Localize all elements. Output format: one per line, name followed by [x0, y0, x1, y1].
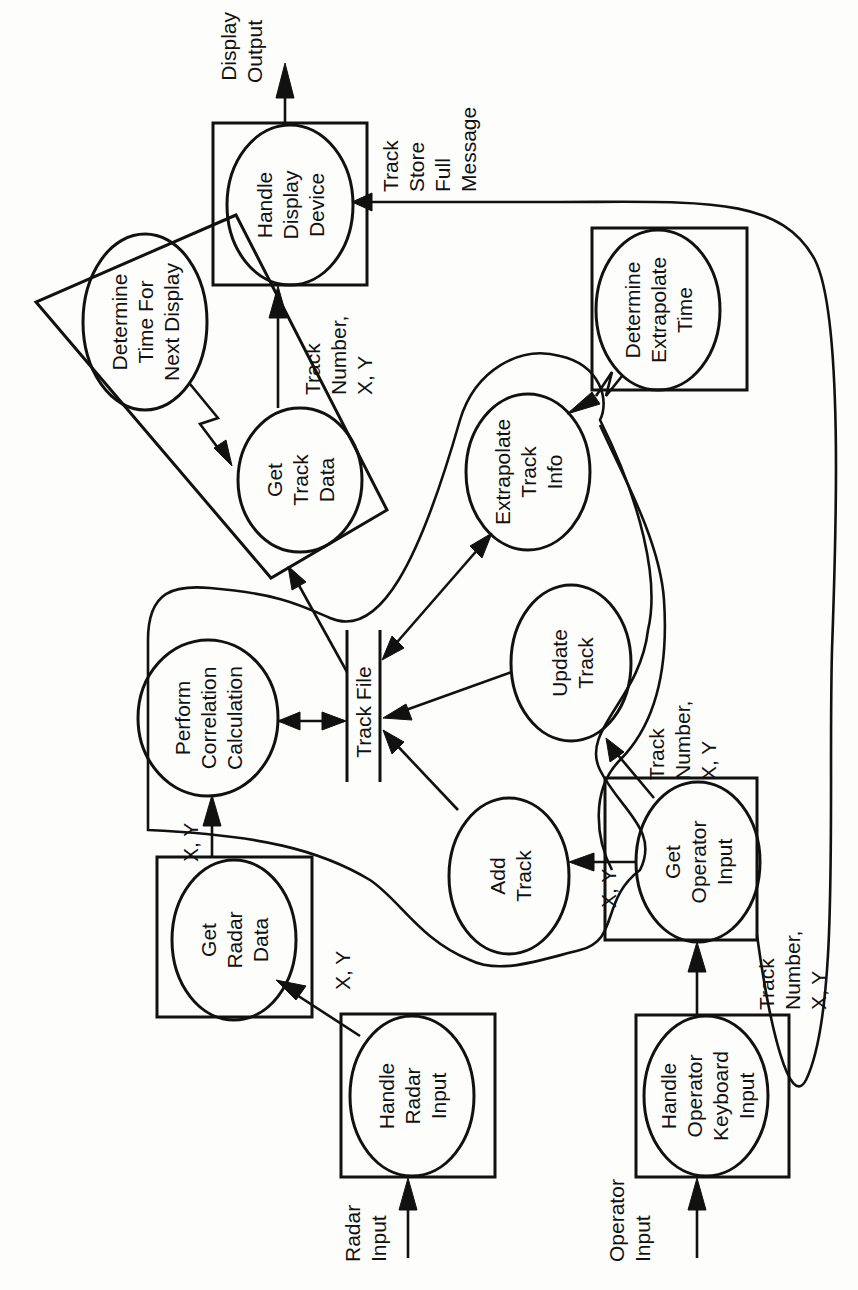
process-label: Display: [279, 170, 302, 239]
process-label: Update: [548, 629, 571, 697]
arrowhead-icon: [688, 942, 706, 972]
process-label: Get: [197, 923, 220, 957]
process-handle-operator-keyboard-input[interactable]: Handle Operator Keyboard Input: [636, 1015, 789, 1177]
flow-label: Message: [457, 107, 480, 192]
arrowhead-icon: [269, 286, 287, 318]
process-label: Operator: [683, 1055, 706, 1138]
flow-trackfile-extrapolate: [382, 533, 492, 660]
arrowhead-icon: [288, 566, 306, 590]
flow-label: Input: [631, 1215, 654, 1262]
process-label: Data: [315, 458, 338, 503]
process-label: Determine: [108, 274, 131, 371]
process-label: Input: [735, 1072, 758, 1119]
flow-update-to-trackfile: [383, 672, 512, 720]
flow-operator-input: Operator Input: [605, 1178, 706, 1262]
arrowhead-icon: [322, 712, 346, 730]
process-perform-correlation-calculation[interactable]: Perform Correlation Calculation: [138, 640, 278, 796]
flow-label: Radar: [341, 1205, 364, 1262]
arrowhead-icon: [352, 193, 372, 211]
arrowhead-icon: [214, 440, 232, 466]
flow-radar-to-correlation: X, Y: [179, 795, 221, 862]
arrowhead-icon: [278, 712, 300, 730]
flow-label: Track: [645, 728, 668, 780]
flow-label: X, Y: [807, 971, 830, 1010]
flow-radar-input-to-get-radar-data: X, Y: [276, 951, 360, 1036]
flow-label: Operator: [605, 1179, 628, 1262]
process-get-operator-input[interactable]: Get Operator Input: [605, 778, 760, 942]
flow-label: X, Y: [179, 823, 202, 862]
process-label: Add: [486, 857, 509, 894]
process-label: Next Display: [160, 263, 183, 381]
flow-label: Number,: [781, 931, 804, 1010]
process-label: Correlation: [197, 667, 220, 770]
arrowhead-icon: [383, 704, 412, 720]
process-label: Extrapolate: [491, 419, 514, 525]
process-get-radar-data[interactable]: Get Radar Data: [157, 857, 312, 1020]
arrowhead-icon: [276, 63, 294, 98]
process-label: Data: [249, 918, 272, 963]
process-label: Time: [673, 287, 696, 333]
flow-track-store-full-message: Track Store Full Message: [352, 107, 836, 1087]
arrowhead-icon: [688, 1178, 706, 1210]
process-determine-time-for-next-display[interactable]: Determine Time For Next Display: [83, 234, 207, 410]
process-label: Device: [305, 173, 328, 237]
process-structure-diagram: Handle Display Device Display Output Tra…: [0, 0, 858, 1290]
flow-label: Track: [301, 343, 324, 395]
flow-add-to-trackfile: [383, 730, 458, 810]
flow-label: Number,: [327, 316, 350, 395]
flow-label: Store: [405, 142, 428, 192]
signal-timer-to-get-track-data: [190, 384, 232, 466]
data-store-label: Track File: [352, 666, 375, 757]
process-label: Perform: [171, 681, 194, 756]
process-label: Handle: [253, 172, 276, 239]
process-label: Track: [574, 637, 597, 689]
arrowhead-icon: [203, 795, 221, 826]
flow-radar-input: Radar Input: [341, 1178, 417, 1262]
process-label: Track: [512, 850, 535, 902]
process-label: Radar: [401, 1067, 424, 1124]
flow-label: X, Y: [331, 951, 354, 990]
process-label: Operator: [687, 821, 710, 904]
process-bubble: [511, 585, 631, 741]
flow-correlation-trackfile: [278, 712, 346, 730]
process-handle-display-device[interactable]: Handle Display Device: [213, 123, 367, 285]
flow-label: Track: [379, 140, 402, 192]
process-update-track[interactable]: Update Track: [511, 585, 631, 741]
process-label: Info: [543, 454, 566, 489]
flow-label: Display: [217, 12, 240, 81]
flow-label: Output: [243, 20, 266, 83]
arrowhead-icon: [399, 1178, 417, 1210]
flow-label: X, Y: [353, 356, 376, 395]
process-label: Time For: [134, 280, 157, 363]
process-label: Get: [661, 845, 684, 879]
process-add-track[interactable]: Add Track: [449, 798, 569, 954]
flow-label: Full: [431, 158, 454, 192]
flow-trackfile-to-get-track-data: [288, 566, 347, 672]
flow-label: Number,: [671, 701, 694, 780]
flow-label: Input: [367, 1215, 390, 1262]
process-extrapolate-track-info[interactable]: Extrapolate Track Info: [466, 394, 590, 550]
arrowhead-icon: [569, 853, 594, 871]
flow-label: X, Y: [697, 741, 720, 780]
process-label: Track: [289, 454, 312, 506]
process-determine-extrapolate-time[interactable]: Determine Extrapolate Time: [592, 228, 747, 390]
process-bubble: [449, 798, 569, 954]
data-store-track-file[interactable]: Track File: [347, 630, 380, 782]
process-label: Calculation: [223, 666, 246, 770]
process-label: Determine: [621, 262, 644, 359]
process-label: Track: [517, 446, 540, 498]
process-label: Input: [713, 838, 736, 885]
process-get-track-data[interactable]: Get Track Data: [238, 408, 362, 552]
process-label: Handle: [375, 1063, 398, 1130]
flow-label: Track: [755, 958, 778, 1010]
flow-track-number-xy-to-display: Track Number, X, Y: [269, 286, 376, 408]
process-label: Radar: [223, 911, 246, 968]
process-label: Keyboard: [709, 1051, 732, 1141]
flow-display-output: Display Output: [217, 12, 294, 125]
process-handle-radar-input[interactable]: Handle Radar Input: [341, 1014, 495, 1177]
process-label: Get: [263, 463, 286, 497]
process-label: Input: [427, 1072, 450, 1119]
flow-operator-to-add-track: X, Y: [569, 853, 636, 908]
process-label: Extrapolate: [647, 257, 670, 363]
process-label: Handle: [657, 1063, 680, 1130]
